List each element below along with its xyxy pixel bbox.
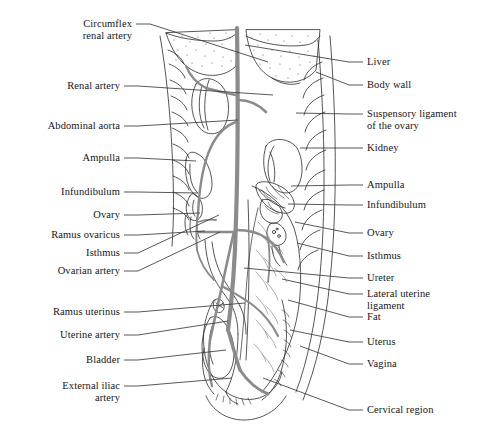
leader-uterus bbox=[290, 330, 363, 342]
label-infundibulum-left: Infundibulum bbox=[61, 186, 120, 198]
label-text: Ureter bbox=[367, 272, 394, 283]
leader-isthmus-right bbox=[297, 243, 363, 256]
label-text: Bladder bbox=[86, 354, 120, 365]
label-text: Liver bbox=[367, 56, 390, 67]
label-text: Ovary bbox=[93, 209, 120, 220]
label-text: Uterus bbox=[367, 336, 396, 347]
label-ramus-ovaricus: Ramus ovaricus bbox=[51, 229, 120, 241]
fat-mass bbox=[246, 186, 301, 392]
label-ovary-left: Ovary bbox=[93, 209, 120, 221]
anatomical-line-drawing bbox=[0, 0, 477, 442]
leader-lines bbox=[124, 24, 363, 410]
label-abdominal-aorta: Abdominal aorta bbox=[48, 120, 120, 132]
label-text: Uterine artery bbox=[60, 329, 120, 340]
abdominal-aorta-vessel bbox=[228, 28, 238, 330]
label-text: Kidney bbox=[367, 142, 399, 153]
arterial-vessels bbox=[186, 28, 284, 394]
leader-renal-artery bbox=[124, 86, 273, 95]
label-renal-artery: Renal artery bbox=[67, 80, 120, 92]
label-text: Body wall bbox=[367, 79, 411, 90]
label-text: Cervical region bbox=[367, 404, 434, 415]
leader-ampulla-right bbox=[291, 185, 363, 186]
label-text: Isthmus bbox=[86, 247, 120, 258]
ovarian-artery-left-vessel bbox=[198, 122, 236, 214]
liver-organ bbox=[166, 30, 320, 84]
label-external-iliac-artery: External iliacartery bbox=[62, 380, 120, 404]
leader-ureter bbox=[244, 268, 363, 278]
label-text: Ramus ovaricus bbox=[51, 229, 120, 240]
leader-suspensory-ligament bbox=[296, 113, 363, 114]
leader-abdominal-aorta bbox=[124, 120, 238, 126]
label-text: Isthmus bbox=[367, 250, 401, 261]
kidney-left bbox=[192, 79, 229, 134]
label-text: Ovarian artery bbox=[58, 265, 120, 276]
renal-artery-right-vessel bbox=[238, 100, 266, 112]
label-text: Circumflex bbox=[83, 18, 132, 29]
label-ampulla-right: Ampulla bbox=[367, 179, 404, 191]
label-isthmus-right: Isthmus bbox=[367, 250, 401, 262]
leader-infundibulum-right bbox=[288, 204, 363, 205]
label-ramus-uterinus: Ramus uterinus bbox=[53, 306, 120, 318]
label-ovarian-artery: Ovarian artery bbox=[58, 265, 120, 277]
label-text: ligament bbox=[367, 300, 405, 311]
label-bladder: Bladder bbox=[86, 354, 120, 366]
label-text: Ampulla bbox=[83, 152, 120, 163]
leader-ovary-right bbox=[295, 222, 363, 233]
label-fat: Fat bbox=[367, 311, 381, 323]
label-text: renal artery bbox=[83, 30, 132, 41]
anatomy-figure: Circumflexrenal arteryRenal arteryAbdomi… bbox=[0, 0, 477, 442]
label-ampulla-left: Ampulla bbox=[83, 152, 120, 164]
label-infundibulum-right: Infundibulum bbox=[367, 199, 426, 211]
label-isthmus-left: Isthmus bbox=[86, 247, 120, 259]
label-text: Ampulla bbox=[367, 179, 404, 190]
leader-ramus-uterinus bbox=[124, 303, 245, 312]
label-text: Infundibulum bbox=[367, 199, 426, 210]
leader-body-wall bbox=[316, 72, 363, 85]
label-vagina: Vagina bbox=[367, 358, 397, 370]
leader-ampulla-left bbox=[124, 158, 196, 161]
label-text: Abdominal aorta bbox=[48, 120, 120, 131]
label-text: Ramus uterinus bbox=[53, 306, 120, 317]
right-oviduct bbox=[256, 182, 295, 266]
leader-ovarian-artery bbox=[124, 232, 220, 271]
label-uterine-artery: Uterine artery bbox=[60, 329, 120, 341]
label-body-wall: Body wall bbox=[367, 79, 411, 91]
label-kidney: Kidney bbox=[367, 142, 399, 154]
label-text: artery bbox=[95, 392, 120, 403]
leader-ovary-left bbox=[124, 213, 200, 215]
label-text: Vagina bbox=[367, 358, 397, 369]
label-ureter: Ureter bbox=[367, 272, 394, 284]
label-text: Lateral uterine bbox=[367, 288, 430, 299]
label-text: Renal artery bbox=[67, 80, 120, 91]
leader-infundibulum-left bbox=[124, 192, 198, 193]
label-cervical-region: Cervical region bbox=[367, 404, 434, 416]
label-circumflex-renal-artery: Circumflexrenal artery bbox=[83, 18, 132, 42]
label-lateral-uterine-ligament: Lateral uterineligament bbox=[367, 288, 430, 312]
label-text: External iliac bbox=[62, 380, 120, 391]
label-ovary-right: Ovary bbox=[367, 227, 394, 239]
leader-liver bbox=[245, 45, 363, 62]
label-liver: Liver bbox=[367, 56, 390, 68]
body-wall-right bbox=[296, 36, 335, 400]
label-uterus: Uterus bbox=[367, 336, 396, 348]
leader-vagina bbox=[300, 346, 363, 364]
label-text: Suspensory ligament bbox=[367, 108, 457, 119]
leader-ramus-ovaricus bbox=[124, 231, 205, 235]
label-text: Fat bbox=[367, 311, 381, 322]
label-suspensory-ligament: Suspensory ligamentof the ovary bbox=[367, 108, 457, 132]
uterus-and-vagina bbox=[202, 240, 291, 420]
label-text: Ovary bbox=[367, 227, 394, 238]
label-text: Infundibulum bbox=[61, 186, 120, 197]
kidney-right bbox=[264, 139, 302, 192]
leader-lateral-uterine-ligament bbox=[282, 279, 363, 294]
label-text: of the ovary bbox=[367, 120, 419, 131]
